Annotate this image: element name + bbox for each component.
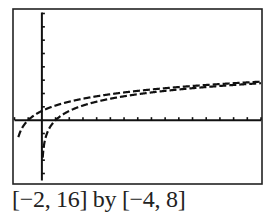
graphing-calculator-screen [0, 0, 269, 186]
window-caption: [−2, 16] by [−4, 8] [12, 186, 185, 213]
screen-frame [13, 9, 262, 184]
